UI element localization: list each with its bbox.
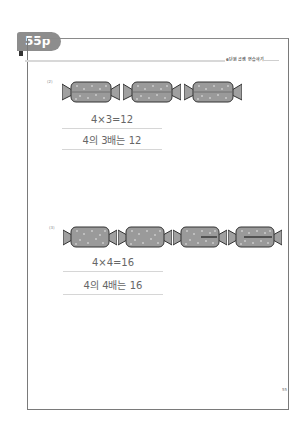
candy-icon bbox=[228, 225, 282, 249]
tab-corner-marker bbox=[19, 51, 23, 56]
candy-row bbox=[63, 225, 282, 249]
sentence-answer: 4의 3배는 12 bbox=[62, 134, 162, 150]
header-rule-right bbox=[263, 60, 279, 61]
candy-icon bbox=[173, 225, 227, 249]
candy-icon bbox=[118, 225, 172, 249]
sentence-answer: 4의 4배는 16 bbox=[63, 279, 163, 295]
header-rule bbox=[25, 60, 225, 62]
candy-icon bbox=[63, 225, 117, 249]
equation-answer: 4×4=16 bbox=[63, 256, 163, 272]
candy-icon bbox=[62, 80, 120, 104]
problem-number: (3) bbox=[49, 225, 55, 230]
section-title: 6단원 곱셈 연습하기 bbox=[226, 56, 264, 62]
candy-icon bbox=[123, 80, 181, 104]
problem-number: (2) bbox=[47, 79, 53, 84]
candy-icon bbox=[184, 80, 242, 104]
page-number: 55 bbox=[282, 387, 287, 392]
equation-answer: 4×3=12 bbox=[62, 113, 162, 129]
candy-row bbox=[62, 80, 242, 104]
